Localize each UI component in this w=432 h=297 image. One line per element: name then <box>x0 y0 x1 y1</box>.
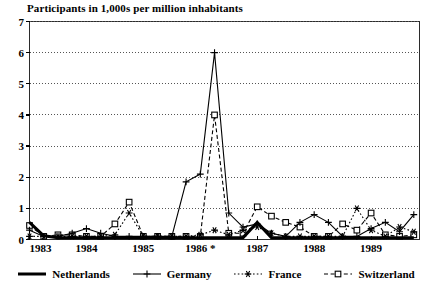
legend-item-netherlands[interactable]: Netherlands <box>17 268 109 280</box>
x-tick-label: 1985 <box>132 242 154 254</box>
legend-item-switzerland[interactable]: Switzerland <box>323 268 414 280</box>
legend-item-germany[interactable]: Germany <box>132 268 212 280</box>
x-tick-label: 1984 <box>75 242 97 254</box>
legend-symbol-thick-line <box>17 268 47 280</box>
y-tick-label: 0 <box>2 234 24 246</box>
grid-lines <box>30 22 420 209</box>
legend-label: France <box>268 268 301 280</box>
legend-label: Switzerland <box>358 268 414 280</box>
legend-symbol-plus-line <box>132 268 162 280</box>
legend-item-france[interactable]: France <box>233 268 301 280</box>
y-tick-label: 2 <box>2 171 24 183</box>
y-tick-label: 6 <box>2 47 24 59</box>
chart-legend: NetherlandsGermanyFranceSwitzerland <box>0 268 432 280</box>
series-france <box>26 205 417 239</box>
y-axis-ticks <box>26 22 30 240</box>
y-tick-label: 7 <box>2 16 24 28</box>
legend-label: Netherlands <box>52 268 109 280</box>
y-tick-label: 1 <box>2 202 24 214</box>
x-tick-label: 1983 <box>30 242 52 254</box>
legend-label: Germany <box>167 268 212 280</box>
x-tick-label: 1986 * <box>185 242 215 254</box>
chart-root: Participants in 1,000s per million inhab… <box>0 0 432 297</box>
x-tick-label: 1989 <box>360 242 382 254</box>
y-tick-label: 5 <box>2 78 24 90</box>
y-tick-label: 3 <box>2 140 24 152</box>
x-tick-label: 1987 <box>246 242 268 254</box>
y-tick-label: 4 <box>2 109 24 121</box>
x-tick-label: 1988 <box>303 242 325 254</box>
legend-symbol-asterisk-dotted <box>233 268 263 280</box>
legend-symbol-square-dashed <box>323 268 353 280</box>
